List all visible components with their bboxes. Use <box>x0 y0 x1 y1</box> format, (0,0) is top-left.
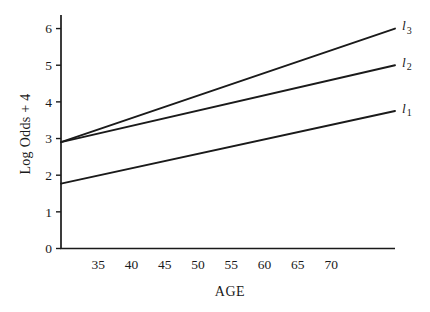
y-tick-label: 1 <box>45 205 52 220</box>
chart-canvas: 01234563540455055606570l1l2l3 <box>0 0 430 312</box>
x-tick-label: 35 <box>92 257 106 272</box>
y-tick-label: 0 <box>45 241 52 256</box>
y-axis-title: Log Odds + 4 <box>17 54 35 214</box>
y-tick-label: 5 <box>45 58 52 73</box>
y-tick-label: 6 <box>45 21 52 36</box>
series-line-l1 <box>61 111 395 184</box>
x-tick-label: 65 <box>291 257 305 272</box>
series-line-l2 <box>61 65 395 142</box>
x-tick-label: 40 <box>125 257 139 272</box>
x-tick-label: 55 <box>225 257 239 272</box>
series-label-l3: l3 <box>402 18 412 36</box>
series-line-l3 <box>61 29 395 143</box>
y-tick-label: 2 <box>45 168 52 183</box>
x-axis-title: AGE <box>160 284 300 300</box>
x-tick-label: 70 <box>324 257 338 272</box>
x-tick-label: 45 <box>158 257 172 272</box>
x-tick-label: 50 <box>191 257 205 272</box>
x-tick-label: 60 <box>258 257 272 272</box>
y-tick-label: 4 <box>45 95 52 110</box>
log-odds-vs-age-figure: 01234563540455055606570l1l2l3 Log Odds +… <box>0 0 430 312</box>
axis-lines <box>61 15 395 249</box>
series-label-l2: l2 <box>402 55 412 73</box>
y-tick-label: 3 <box>45 131 52 146</box>
series-label-l1: l1 <box>402 101 412 119</box>
